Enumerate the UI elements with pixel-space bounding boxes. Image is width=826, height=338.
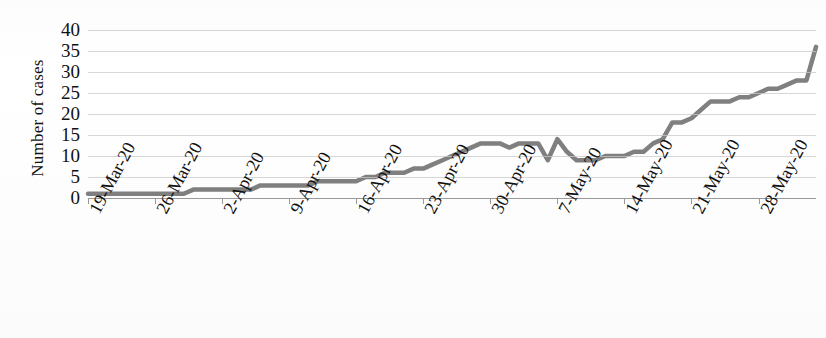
x-axis-tick-label: 2-Apr-20 [220, 149, 267, 216]
x-axis-tick-label: 19-Mar-20 [86, 139, 138, 216]
x-axis-tick-labels: 19-Mar-2026-Mar-202-Apr-209-Apr-2016-Apr… [0, 0, 826, 338]
x-axis-tick-label: 26-Mar-20 [153, 139, 205, 216]
x-axis-tick-label: 14-May-20 [622, 136, 676, 216]
x-axis-tick-label: 28-May-20 [757, 136, 811, 216]
x-axis-tick-label: 30-Apr-20 [488, 141, 539, 216]
line-chart: Number of cases 4035302520151050 19-Mar-… [0, 0, 826, 338]
x-axis-tick-label: 23-Apr-20 [421, 141, 472, 216]
x-axis-tick-label: 7-May-20 [555, 144, 605, 216]
x-axis-tick-label: 16-Apr-20 [354, 141, 405, 216]
x-axis-tick-label: 21-May-20 [689, 136, 743, 216]
x-axis-tick-label: 9-Apr-20 [287, 149, 334, 216]
